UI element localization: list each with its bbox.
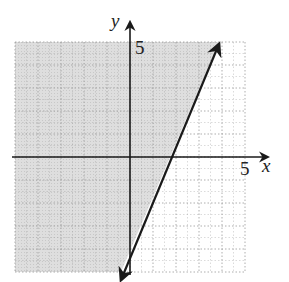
- y-axis-label: y: [109, 10, 120, 31]
- x-axis-label: x: [261, 155, 271, 176]
- x-tick-label-5: 5: [240, 158, 250, 179]
- coordinate-plane: y 5 x 5: [0, 0, 289, 282]
- y-tick-label-5: 5: [135, 37, 145, 58]
